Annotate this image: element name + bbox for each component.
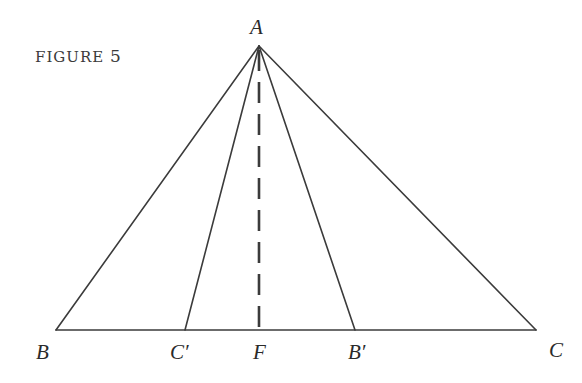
point-label-A: A [250,17,263,38]
point-label-C-prime: C′ [170,342,189,363]
segment-AC [259,46,536,330]
segment-AC-prime [185,46,259,330]
triangle-diagram [0,0,582,383]
segment-AB [56,46,259,330]
point-label-F: F [253,342,266,363]
point-label-B-prime: B′ [348,342,365,363]
point-label-C: C [549,340,563,361]
segment-AB-prime [259,46,355,330]
point-label-B: B [36,342,49,363]
